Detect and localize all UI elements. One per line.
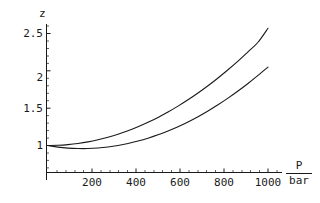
y-tick-label-1.5: 1.5 [10, 103, 43, 114]
y-tick-label-2: 2 [10, 72, 43, 83]
curve-lower [48, 67, 268, 149]
x-axis-unit-denominator: bar [287, 175, 311, 187]
y-tick-label-2.5: 2.5 [10, 28, 43, 39]
curve-upper [48, 28, 268, 145]
x-tick-label-800: 800 [208, 177, 240, 188]
x-tick-label-600: 600 [164, 177, 196, 188]
y-axis-ticks [47, 34, 51, 146]
chart-plot-area [0, 0, 320, 203]
x-axis-unit-label: P bar [286, 160, 312, 187]
x-tick-label-1000: 1000 [248, 177, 288, 188]
y-tick-label-1: 1 [10, 140, 43, 151]
y-axis-label: z [39, 8, 46, 19]
x-axis-unit-numerator: P [294, 160, 305, 172]
x-tick-label-400: 400 [120, 177, 152, 188]
x-tick-label-200: 200 [76, 177, 108, 188]
